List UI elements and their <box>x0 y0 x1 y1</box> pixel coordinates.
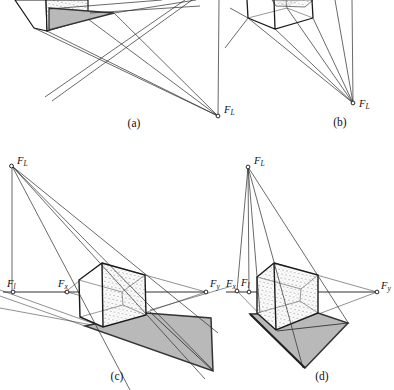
label-fl-c: Fl <box>6 278 16 291</box>
caption-d: (d) <box>315 370 329 383</box>
label-fl-top-c: FL <box>16 155 28 168</box>
vanishing-point-marker-fl-d <box>247 290 251 294</box>
panel-c: FL Fl Fx Fy (c) <box>0 155 232 390</box>
cube-b-top-patch <box>272 0 313 7</box>
label-fl-top-d: FL <box>253 155 265 168</box>
label-fx-d: Fx <box>225 278 236 291</box>
vanishing-point-marker-fl-top-d <box>246 165 250 169</box>
label-fy-d: Fy <box>380 280 391 293</box>
vanishing-point-marker-fy-d <box>375 290 379 294</box>
vanishing-point-marker-fl-a <box>216 114 220 118</box>
vanishing-point-marker-fy-c <box>204 290 208 294</box>
construction-lines-b <box>225 0 353 103</box>
panel-d: FL Fx Fl Fy (d) <box>225 155 391 383</box>
cube-a-left-face <box>15 0 47 31</box>
vanishing-point-marker-fl-b <box>351 101 355 105</box>
caption-b: (b) <box>333 116 347 129</box>
label-fl-a: FL <box>223 104 235 117</box>
label-fy-c: Fy <box>209 278 220 291</box>
label-fx-c: Fx <box>57 278 68 291</box>
figure-canvas: FL (a) FL (b) FL Fl Fx Fy (c) <box>0 0 394 390</box>
panel-a: FL (a) <box>15 0 235 130</box>
shadow-construction-diagram: FL (a) FL (b) FL Fl Fx Fy (c) <box>0 0 394 390</box>
caption-c: (c) <box>111 370 124 383</box>
caption-a: (a) <box>128 117 141 130</box>
panel-b: FL (b) <box>225 0 370 129</box>
vanishing-point-marker-fl-top-c <box>10 164 14 168</box>
shadow-a <box>49 8 114 30</box>
label-fl-b: FL <box>358 98 370 111</box>
label-fl-d: Fl <box>240 277 250 290</box>
